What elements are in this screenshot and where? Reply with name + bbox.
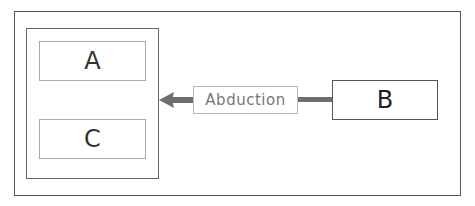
node-b-label: B: [377, 86, 393, 114]
edge-label-text: Abduction: [205, 91, 285, 109]
edge-label-abduction: Abduction: [193, 86, 298, 114]
node-b: B: [332, 80, 438, 120]
